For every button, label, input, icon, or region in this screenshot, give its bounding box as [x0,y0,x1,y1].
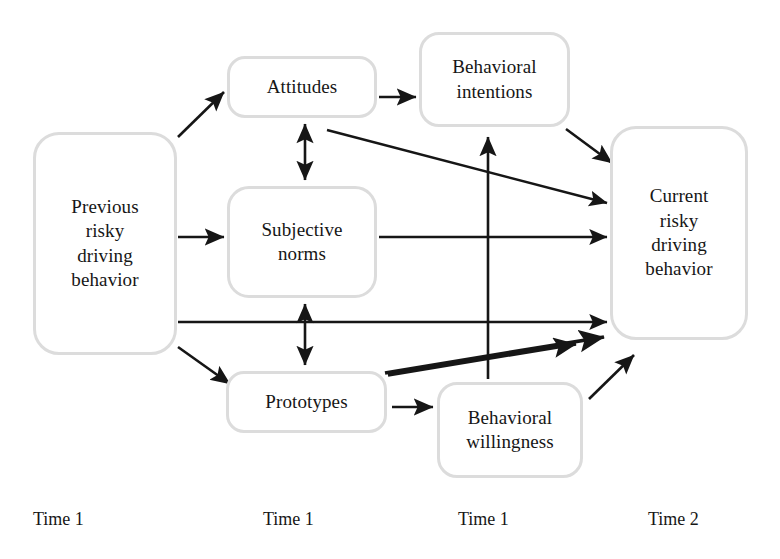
node-current-label: Current risky driving behavior [639,184,718,281]
arrow-previous-to-attitudes [178,92,224,137]
node-current-risky-driving-behavior[interactable]: Current risky driving behavior [610,126,748,340]
node-subjective-norms[interactable]: Subjective norms [227,186,377,298]
time-label-column-2: Time 1 [263,509,314,530]
node-prototypes-label: Prototypes [259,390,353,414]
node-attitudes-label: Attitudes [261,75,344,99]
time-label-column-1: Time 1 [33,509,84,530]
arrow-prototypes-to-current-secondary [388,344,576,375]
node-behavioral-willingness-label: Behavioral willingness [460,406,560,455]
node-behavioral-intentions-label: Behavioral intentions [446,55,542,104]
node-prototypes[interactable]: Prototypes [226,371,387,433]
arrow-prototypes-to-current [385,337,604,373]
path-model-diagram: Previous risky driving behavior Attitude… [0,0,780,559]
node-previous-label: Previous risky driving behavior [65,195,144,292]
node-behavioral-intentions[interactable]: Behavioral intentions [419,32,570,127]
node-attitudes[interactable]: Attitudes [227,56,377,118]
arrow-previous-to-prototypes [178,347,230,384]
node-subjective-norms-label: Subjective norms [255,218,348,267]
time-label-column-4: Time 2 [648,509,699,530]
time-label-column-3: Time 1 [458,509,509,530]
arrow-intentions-to-current [566,129,612,163]
arrow-willingness-to-current [589,355,634,399]
node-behavioral-willingness[interactable]: Behavioral willingness [437,382,583,478]
node-previous-risky-driving-behavior[interactable]: Previous risky driving behavior [33,132,177,355]
